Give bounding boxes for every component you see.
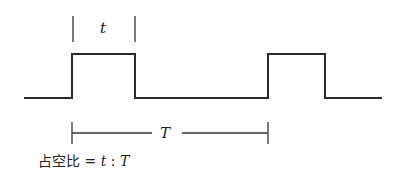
formula-equals: = (84, 153, 96, 169)
formula-prefix: 占空比 (38, 153, 80, 169)
formula-separator: : (111, 153, 116, 169)
period-label: T (160, 124, 171, 142)
formula-numerator: t (101, 153, 107, 169)
formula-denominator: T (120, 153, 129, 169)
duty-cycle-formula: 占空比 = t : T (38, 150, 129, 170)
pulse-width-label: t (100, 19, 107, 37)
square-wave (24, 54, 382, 98)
